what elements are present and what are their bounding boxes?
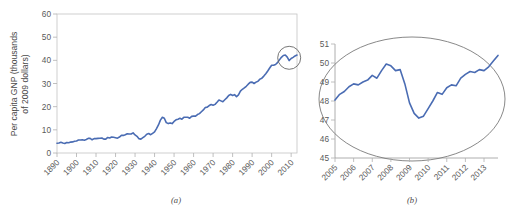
y-axis-title-line2: of 2009 dollars) [20, 54, 30, 113]
y-tick-label: 50 [42, 32, 52, 42]
y-axis-title-a: Per capita GNP (thousands of 2009 dollar… [9, 32, 30, 136]
y-tick-label: 40 [42, 55, 52, 65]
y-tick-label: 50 [320, 58, 330, 68]
gnp-series-line [57, 55, 297, 143]
panel-b-svg: 45464748495051 2005200620072008200920102… [300, 0, 512, 223]
x-tick-label: 1900 [61, 157, 81, 177]
y-tick-label: 20 [42, 102, 52, 112]
y-tick-label: 48 [320, 96, 330, 106]
panel-a-svg: 0102030405060 18901900191019201930194019… [0, 0, 310, 223]
y-tick-label: 30 [42, 79, 52, 89]
x-tick-label: 2008 [375, 162, 395, 182]
y-axis-ticks-a: 0102030405060 [42, 9, 57, 158]
x-tick-label: 1960 [178, 157, 198, 177]
magnifier-ellipse-icon [319, 37, 505, 161]
x-tick-label: 2009 [394, 162, 414, 182]
x-tick-label: 2010 [275, 157, 295, 177]
y-axis-title-line1: Per capita GNP (thousands [9, 32, 19, 136]
x-tick-label: 1920 [100, 157, 120, 177]
x-tick-label: 2006 [338, 162, 358, 182]
x-tick-label: 1940 [139, 157, 159, 177]
y-tick-label: 0 [46, 148, 51, 158]
x-tick-label: 1950 [158, 157, 178, 177]
x-tick-label: 1970 [197, 157, 217, 177]
panel-a: 0102030405060 18901900191019201930194019… [0, 0, 310, 223]
y-tick-label: 46 [320, 134, 330, 144]
x-tick-label: 2007 [357, 162, 377, 182]
panel-a-caption: (a) [171, 195, 181, 205]
x-tick-label: 1990 [236, 157, 256, 177]
x-tick-label: 1910 [80, 157, 100, 177]
y-tick-label: 60 [42, 9, 52, 19]
x-tick-label: 1980 [217, 157, 237, 177]
x-tick-label: 2000 [256, 157, 276, 177]
x-axis-ticks-a: 1890190019101920193019401950196019701980… [41, 153, 296, 177]
x-tick-label: 2013 [468, 162, 488, 182]
y-tick-label: 49 [320, 77, 330, 87]
x-axis-ticks-b: 200520062007200820092010201120122013 [319, 158, 488, 182]
y-axis-ticks-b: 45464748495051 [320, 39, 335, 163]
y-tick-label: 47 [320, 115, 330, 125]
panel-b-caption: (b) [407, 195, 417, 205]
x-tick-label: 2011 [431, 162, 451, 182]
y-tick-label: 51 [320, 39, 330, 49]
gnp-detail-series-line [335, 55, 498, 118]
panel-b: 45464748495051 2005200620072008200920102… [300, 0, 512, 223]
y-tick-label: 45 [320, 153, 330, 163]
plot-frame-a [57, 14, 297, 153]
x-tick-label: 2012 [450, 162, 470, 182]
x-tick-label: 2010 [412, 162, 432, 182]
x-tick-label: 1930 [119, 157, 139, 177]
x-tick-label: 2005 [319, 162, 339, 182]
y-tick-label: 10 [42, 125, 52, 135]
x-tick-label: 1890 [41, 157, 61, 177]
figure-container: 0102030405060 18901900191019201930194019… [0, 0, 512, 223]
